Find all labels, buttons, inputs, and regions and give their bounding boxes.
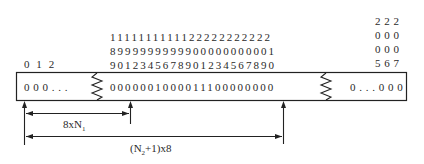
arrow-up-icon: [281, 101, 286, 108]
break-right-icon: [321, 73, 331, 100]
bitfield-left-segment: 0 0 0 . . .: [24, 81, 68, 93]
arrow-left-icon: [26, 111, 33, 116]
middle-bit-index-row1: 1111111111122222222222: [110, 31, 272, 43]
length-dimension-label: (N2+1)x8: [130, 142, 171, 157]
middle-bit-index-row3: 9012345678901234567890: [110, 59, 276, 71]
break-left-icon: [92, 73, 102, 100]
arrow-up-icon: [128, 101, 133, 108]
right-bit-index-row1: 2 2 2: [375, 15, 400, 27]
arrow-right-icon: [275, 134, 282, 139]
arrow-up-icon: [22, 101, 27, 108]
arrow-left-icon: [26, 134, 33, 139]
bitfield-middle-segment: 0000001000011100000000: [110, 81, 275, 93]
right-bit-index-row2: 0 0 0: [375, 29, 400, 41]
middle-bit-index-row2: 8999999999900000000001: [110, 45, 276, 57]
left-bit-index-header: 0 1 2: [24, 58, 56, 70]
right-bit-index-row3: 0 0 0: [375, 43, 400, 55]
bitfield-right-segment: 0 . . . 0 0 0: [350, 81, 403, 93]
right-bit-index-row4: 5 6 7: [375, 57, 400, 69]
arrow-right-icon: [122, 111, 129, 116]
offset-dimension-label: 8xN1: [63, 118, 85, 133]
